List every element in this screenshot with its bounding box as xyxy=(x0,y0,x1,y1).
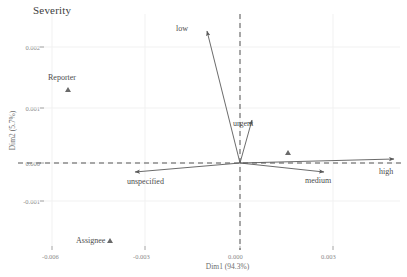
vector-label-unspecified: unspecified xyxy=(127,177,164,186)
vector-medium xyxy=(240,163,324,172)
plot-graphics xyxy=(0,0,407,277)
marker-reporter xyxy=(65,87,71,92)
marker-assignee xyxy=(107,238,113,243)
tick-marks xyxy=(40,47,333,250)
vector-unspecified xyxy=(135,163,240,172)
vector-label-low: low xyxy=(176,24,188,33)
point-label-reporter: Reporter xyxy=(48,73,76,82)
vector-low xyxy=(207,31,240,163)
vector-label-medium: medium xyxy=(305,176,331,185)
chart-canvas: Severity Dim2 (5.7%) Dim1 (94.3%) 0.002 … xyxy=(0,0,407,277)
gridlines xyxy=(30,14,400,246)
vector-label-urgent: urgent xyxy=(233,119,253,128)
marker-origin-right xyxy=(285,150,291,155)
point-label-assignee: Assignee xyxy=(76,236,105,245)
vector-high xyxy=(240,159,394,163)
vector-label-high: high xyxy=(379,167,393,176)
vector-arrows xyxy=(135,31,394,172)
